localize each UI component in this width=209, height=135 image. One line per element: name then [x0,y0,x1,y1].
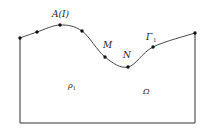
label-rho-1: ρ1 [67,81,76,91]
node-point [126,65,129,68]
node-point [35,30,38,33]
label-gamma-sub: 1 [153,37,156,43]
domain-diagram: A(I) M N Γ1 ρ1 Ω [0,0,209,135]
label-a-i: A(I) [51,9,70,19]
node-point [18,36,21,39]
label-omega: Ω [142,87,150,96]
label-gamma-1: Γ1 [145,32,156,43]
label-n: N [122,50,132,60]
label-a-paren: (I) [59,9,70,19]
label-m: M [102,40,113,50]
node-point [58,23,61,26]
node-point [80,29,83,32]
label-rho-sub: 1 [73,85,76,91]
node-point [103,55,106,58]
node-point [151,45,154,48]
node-point [193,31,196,34]
label-gamma-main: Γ [145,32,153,42]
